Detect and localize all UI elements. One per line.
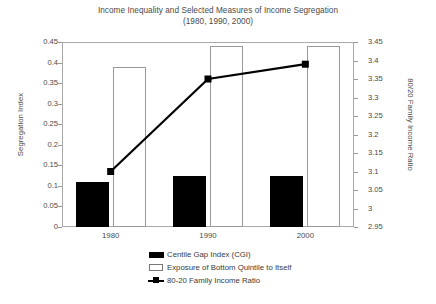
y-tick-label-right: 3.4 <box>368 57 400 65</box>
y-axis-title-left: Segregation Index <box>16 65 25 185</box>
x-axis-label-2000: 2000 <box>275 231 335 240</box>
line-series-layer <box>62 42 354 227</box>
y-tick-mark-right <box>354 42 358 43</box>
y-tick-label-right: 3.45 <box>368 38 400 46</box>
legend-label-income-ratio: 80-20 Family Income Ratio <box>167 276 260 285</box>
y-tick-label-right: 3.05 <box>368 186 400 194</box>
y-tick-label-left: 0.25 <box>26 120 58 128</box>
y-tick-label-left: 0.2 <box>26 141 58 149</box>
chart-title-line1: Income Inequality and Selected Measures … <box>98 6 338 15</box>
y-axis-title-right: 80/20 Family Income Ratio <box>406 55 415 195</box>
y-tick-mark-right <box>354 172 358 173</box>
legend-label-cgi: Centile Gap Index (CGI) <box>167 250 251 259</box>
y-tick-mark-right <box>354 135 358 136</box>
y-tick-label-left: 0.4 <box>26 59 58 67</box>
y-tick-label-left: 0.35 <box>26 79 58 87</box>
income-ratio-marker-2000 <box>302 61 309 68</box>
y-tick-label-left: 0.15 <box>26 161 58 169</box>
legend-item-exposure[interactable]: Exposure of Bottom Quintile to Itself <box>148 261 368 274</box>
y-tick-mark-right <box>354 153 358 154</box>
y-tick-label-right: 3.15 <box>368 149 400 157</box>
y-tick-label-right: 3.3 <box>368 94 400 102</box>
chart-figure: Income Inequality and Selected Measures … <box>0 0 436 304</box>
y-tick-mark-right <box>354 61 358 62</box>
y-tick-label-left: 0.05 <box>26 202 58 210</box>
legend-label-exposure: Exposure of Bottom Quintile to Itself <box>167 263 291 272</box>
y-tick-mark-right <box>354 98 358 99</box>
y-tick-label-right: 3.25 <box>368 112 400 120</box>
y-tick-mark-right <box>354 209 358 210</box>
y-tick-label-right: 3.1 <box>368 168 400 176</box>
y-tick-label-right: 3.2 <box>368 131 400 139</box>
y-tick-label-right: 3 <box>368 205 400 213</box>
chart-title: Income Inequality and Selected Measures … <box>0 5 436 27</box>
y-tick-mark-right <box>354 190 358 191</box>
income-ratio-marker-1990 <box>205 76 212 83</box>
hollow-bar-swatch-icon <box>148 261 164 274</box>
y-tick-mark-right <box>354 116 358 117</box>
line-marker-swatch-icon <box>148 274 164 287</box>
y-tick-label-left: 0 <box>26 223 58 231</box>
legend-item-cgi[interactable]: Centile Gap Index (CGI) <box>148 248 368 261</box>
x-axis-label-1980: 1980 <box>81 231 141 240</box>
x-axis-label-1990: 1990 <box>178 231 238 240</box>
y-tick-mark-right <box>354 79 358 80</box>
y-tick-label-left: 0.1 <box>26 182 58 190</box>
filled-bar-swatch-icon <box>148 248 164 261</box>
y-tick-label-left: 0.3 <box>26 100 58 108</box>
y-tick-label-right: 3.35 <box>368 75 400 83</box>
y-tick-mark-right <box>354 227 358 228</box>
y-tick-label-left: 0.45 <box>26 38 58 46</box>
legend-item-income-ratio[interactable]: 80-20 Family Income Ratio <box>148 274 368 287</box>
chart-legend: Centile Gap Index (CGI) Exposure of Bott… <box>148 248 368 287</box>
chart-title-line2: (1980, 1990, 2000) <box>0 16 436 27</box>
y-tick-mark-left <box>58 227 62 228</box>
y-tick-label-right: 2.95 <box>368 223 400 231</box>
income-ratio-marker-1980 <box>107 168 114 175</box>
